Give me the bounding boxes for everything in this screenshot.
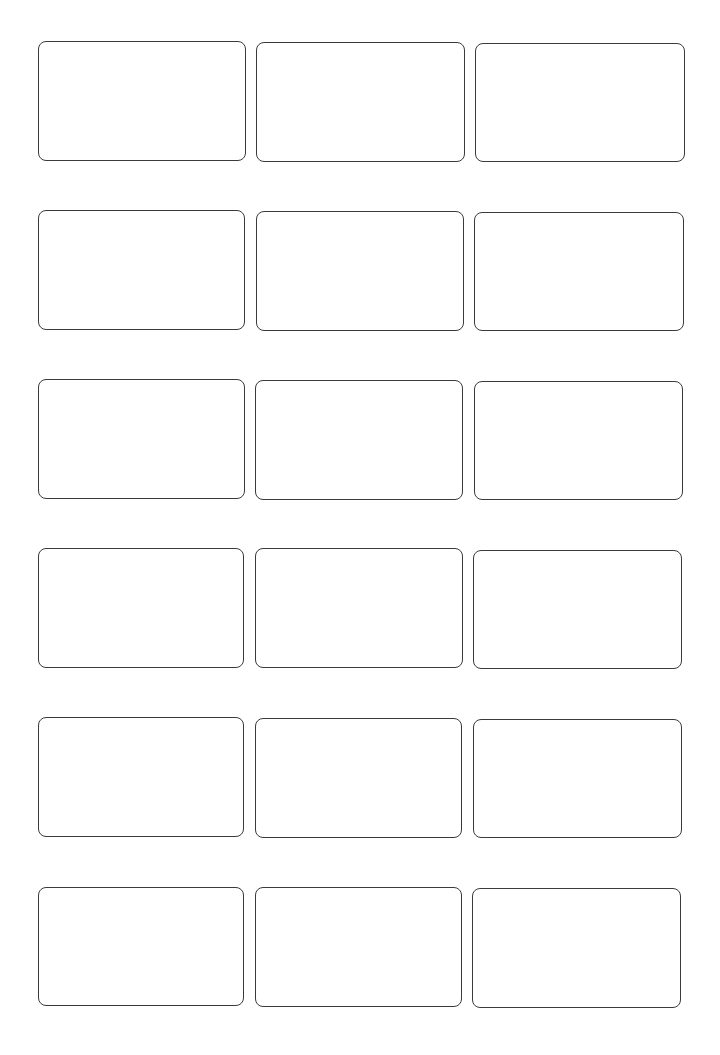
label-sheet (0, 0, 720, 1055)
label-box-r4-c3[interactable] (473, 550, 682, 669)
label-box-r4-c1[interactable] (38, 548, 244, 668)
label-box-r6-c1[interactable] (38, 887, 244, 1006)
label-box-r4-c2[interactable] (255, 548, 463, 668)
label-box-r1-c2[interactable] (256, 42, 465, 162)
label-box-r5-c3[interactable] (473, 719, 682, 838)
label-box-r5-c1[interactable] (38, 717, 244, 837)
label-box-r2-c3[interactable] (474, 212, 684, 331)
label-box-r5-c2[interactable] (255, 718, 462, 838)
label-box-r2-c2[interactable] (256, 211, 464, 331)
label-box-r6-c2[interactable] (255, 887, 462, 1007)
label-box-r2-c1[interactable] (38, 210, 245, 330)
label-box-r1-c3[interactable] (475, 43, 685, 162)
label-box-r6-c3[interactable] (472, 888, 681, 1008)
label-box-r3-c1[interactable] (38, 379, 245, 499)
label-box-r3-c3[interactable] (474, 381, 683, 500)
label-box-r3-c2[interactable] (255, 380, 463, 500)
label-box-r1-c1[interactable] (38, 41, 246, 161)
